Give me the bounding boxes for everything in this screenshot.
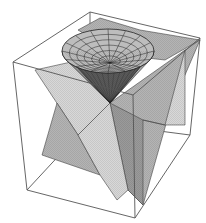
cone-plane-3d-plot <box>0 0 206 223</box>
plot-canvas <box>0 0 206 223</box>
box-edge-front-left-vertical <box>13 62 27 190</box>
